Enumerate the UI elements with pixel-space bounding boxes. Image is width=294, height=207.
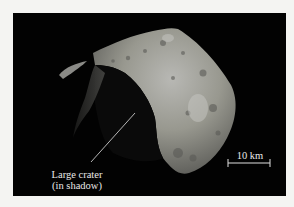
- crater-annotation: Large crater (in shadow): [49, 169, 105, 191]
- crater-label-line2: (in shadow): [49, 180, 105, 191]
- scale-label: 10 km: [235, 150, 265, 161]
- asteroid-lit-sliver: [59, 61, 87, 79]
- asteroid-photo: Large crater (in shadow) 10 km: [13, 13, 286, 196]
- crater-label-line1: Large crater: [49, 169, 105, 180]
